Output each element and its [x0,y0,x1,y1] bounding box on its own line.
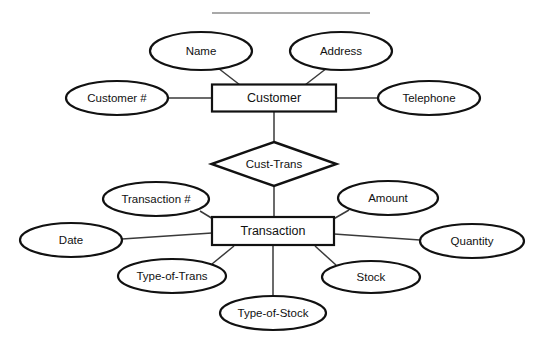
edge-type-of-trans-to-transaction [212,246,234,264]
entity-node-transaction[interactable]: Transaction [212,217,334,245]
entity-label-customer: Customer [247,91,301,105]
attribute-label-customer-number: Customer # [87,92,147,104]
attribute-node-type-of-stock[interactable]: Type-of-Stock [220,296,326,330]
relationships-layer: Cust-Trans [212,142,337,186]
edge-stock-to-transaction [315,246,336,265]
er-diagram-canvas: NameAddressCustomer #TelephoneTransactio… [0,0,540,349]
edge-name-to-customer [218,68,240,85]
attribute-node-transaction-number[interactable]: Transaction # [103,182,209,216]
attribute-label-date: Date [59,234,83,246]
attribute-label-type-of-stock: Type-of-Stock [238,307,309,319]
attribute-node-name[interactable]: Name [150,32,252,70]
attribute-node-address[interactable]: Address [290,32,392,70]
attribute-node-amount[interactable]: Amount [338,181,438,215]
edge-quantity-to-transaction [334,234,420,240]
entity-node-customer[interactable]: Customer [212,85,336,112]
attribute-node-quantity[interactable]: Quantity [420,224,524,258]
relationship-label-cust-trans: Cust-Trans [246,158,303,170]
attribute-label-amount: Amount [368,192,408,204]
attribute-node-stock[interactable]: Stock [322,261,420,293]
attribute-label-quantity: Quantity [451,235,494,247]
attribute-label-telephone: Telephone [402,92,455,104]
attribute-label-transaction-number: Transaction # [121,193,191,205]
attribute-node-customer-number[interactable]: Customer # [66,81,168,115]
er-diagram-svg: NameAddressCustomer #TelephoneTransactio… [0,0,540,349]
attribute-node-type-of-trans[interactable]: Type-of-Trans [118,259,226,293]
attribute-label-type-of-trans: Type-of-Trans [136,270,207,282]
attribute-label-address: Address [320,45,362,57]
entity-label-transaction: Transaction [241,224,306,238]
relationship-node-cust-trans[interactable]: Cust-Trans [212,142,337,186]
attribute-node-telephone[interactable]: Telephone [378,81,480,115]
attribute-label-stock: Stock [357,271,386,283]
edge-address-to-customer [305,68,327,85]
attribute-node-date[interactable]: Date [20,223,122,257]
edge-date-to-transaction [122,233,212,239]
attribute-label-name: Name [186,45,217,57]
